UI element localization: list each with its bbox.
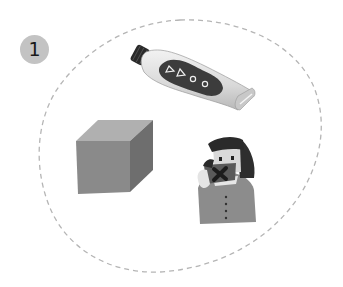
person-icon	[0, 0, 343, 287]
illustration-canvas: 1	[0, 0, 343, 287]
